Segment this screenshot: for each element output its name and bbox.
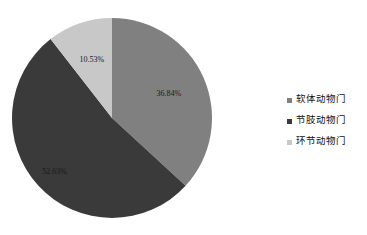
- pie-slice-label-arthropoda: 52.63%: [42, 166, 67, 175]
- chart-legend: 软体动物门 节肢动物门 环节动物门: [287, 92, 367, 155]
- legend-item-label: 环节动物门: [296, 137, 346, 147]
- legend-item-mollusca[interactable]: 软体动物门: [287, 92, 367, 108]
- pie-chart-graphic: 36.84% 52.63% 10.53%: [12, 18, 212, 218]
- legend-item-annelida[interactable]: 环节动物门: [287, 134, 367, 150]
- pie-chart-figure: 36.84% 52.63% 10.53% 软体动物门 节肢动物门 环节动物门: [0, 0, 367, 235]
- legend-swatch-icon: [287, 140, 292, 145]
- legend-swatch-icon: [287, 98, 292, 103]
- legend-item-label: 节肢动物门: [296, 116, 346, 126]
- legend-item-label: 软体动物门: [296, 95, 346, 105]
- legend-swatch-icon: [287, 119, 292, 124]
- legend-item-arthropoda[interactable]: 节肢动物门: [287, 113, 367, 129]
- pie-svg: [12, 18, 212, 218]
- pie-slice-label-mollusca: 36.84%: [156, 89, 181, 98]
- pie-slice-label-annelida: 10.53%: [80, 55, 105, 64]
